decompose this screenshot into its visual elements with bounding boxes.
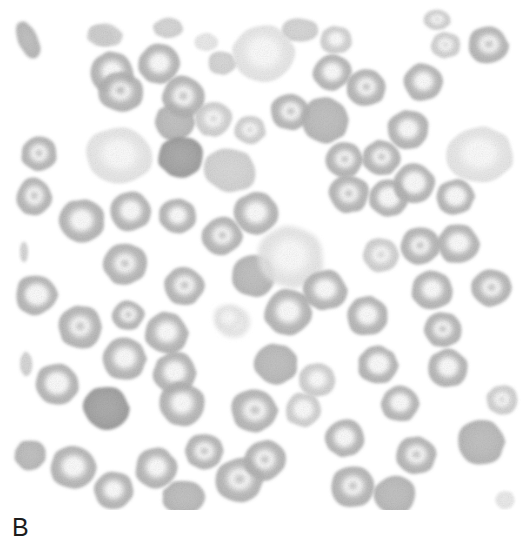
central-pallor [223,313,233,321]
erythrocyte [331,466,374,507]
erythrocyte [412,271,453,310]
central-pallor [360,309,374,322]
central-pallor [65,459,81,473]
central-pallor [451,237,465,250]
figure-panel-b: B B [0,0,530,552]
erythrocyte-body [59,306,102,349]
central-pallor [278,246,301,266]
central-pallor [441,361,455,373]
central-pallor [338,431,352,443]
central-pallor [280,304,296,319]
central-pallor [26,285,46,303]
erythrocyte-body [331,466,374,507]
erythrocyte [59,306,102,349]
central-pallor [401,123,415,136]
panel-label: B [12,515,29,540]
central-pallor [74,213,90,227]
erythrocyte-body [299,363,335,396]
central-pallor [117,351,132,364]
central-pallor [294,402,311,418]
central-pallor [469,145,491,164]
central-pallor [368,356,387,373]
central-pallor [249,205,264,218]
central-pallor [318,283,333,296]
central-pallor [123,204,137,217]
erythrocyte [320,26,351,54]
central-pallor [404,174,424,192]
micrograph-image [0,0,530,510]
erythrocyte-body [320,26,351,54]
central-pallor [152,57,166,70]
central-pallor [46,374,67,393]
erythrocyte-body [412,271,453,310]
central-pallor [446,188,464,205]
micrograph-svg [0,0,530,510]
central-pallor [394,398,407,410]
erythrocyte [299,363,335,396]
central-pallor [168,365,183,378]
